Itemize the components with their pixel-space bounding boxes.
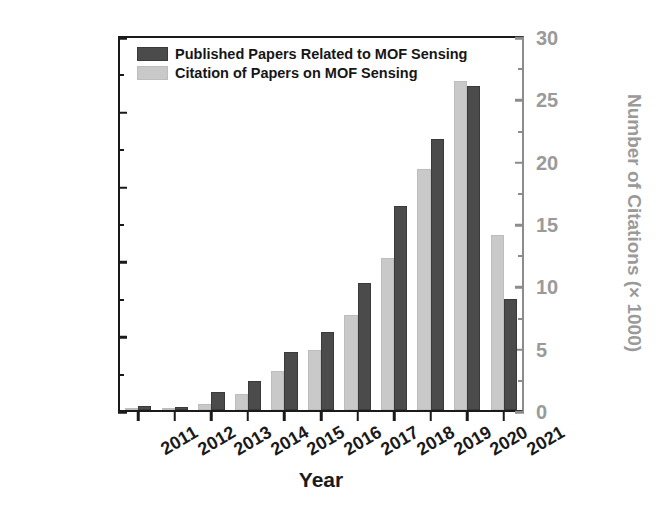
bar-published-2015: [284, 352, 297, 410]
x-axis-tick: [320, 412, 323, 421]
bar-citations-2019: [417, 169, 430, 410]
bar-citations-2018: [381, 258, 394, 410]
bar-published-2013: [211, 392, 224, 410]
bar-published-2021: [504, 299, 517, 410]
x-axis-tick: [210, 412, 213, 421]
x-axis-title: Year: [118, 468, 524, 492]
chart-legend: Published Papers Related to MOF Sensing …: [137, 46, 467, 81]
bar-citations-2016: [308, 350, 321, 410]
chart-container: Number of Published Papers Number of Cit…: [0, 0, 661, 509]
y-axis-right-tick-label: 25: [536, 89, 606, 112]
bar-published-2018: [394, 206, 407, 410]
bar-citations-2012: [162, 408, 175, 410]
y-axis-right-tick: [515, 411, 524, 414]
x-axis-tick: [356, 412, 359, 421]
bar-citations-2014: [235, 394, 248, 410]
x-axis-tick: [466, 412, 469, 421]
y-axis-right-tick-label: 20: [536, 151, 606, 174]
bar-published-2011: [138, 406, 151, 410]
x-axis-tick: [429, 412, 432, 421]
bar-published-2020: [467, 86, 480, 410]
bar-published-2019: [431, 139, 444, 410]
y-axis-right-tick-label: 0: [536, 401, 606, 424]
legend-label-citations: Citation of Papers on MOF Sensing: [175, 65, 418, 81]
bars-layer: [120, 38, 522, 410]
x-axis-tick: [283, 412, 286, 421]
y-axis-right-tick-label: 10: [536, 276, 606, 299]
bar-published-2012: [175, 407, 188, 410]
x-axis-tick: [393, 412, 396, 421]
y-axis-left-tick: [118, 411, 127, 414]
bar-citations-2017: [344, 315, 357, 410]
bar-citations-2011: [125, 408, 138, 410]
bar-published-2016: [321, 332, 334, 410]
legend-swatch-published: [137, 47, 168, 61]
legend-item: Published Papers Related to MOF Sensing: [137, 46, 467, 62]
bar-published-2017: [358, 283, 371, 410]
y-axis-right-title: Number of Citations (× 1000): [623, 28, 645, 418]
y-axis-right-tick-label: 30: [536, 27, 606, 50]
x-axis-tick: [247, 412, 250, 421]
x-axis-tick: [502, 412, 505, 421]
legend-item: Citation of Papers on MOF Sensing: [137, 65, 467, 81]
y-axis-right-tick-label: 5: [536, 338, 606, 361]
bar-published-2014: [248, 381, 261, 410]
y-axis-right-tick-label: 15: [536, 214, 606, 237]
bar-citations-2013: [198, 404, 211, 410]
bar-citations-2015: [271, 371, 284, 410]
legend-label-published: Published Papers Related to MOF Sensing: [175, 46, 467, 62]
x-axis-tick-label: 2021: [523, 422, 568, 460]
bar-citations-2021: [491, 235, 504, 410]
legend-swatch-citations: [137, 66, 168, 80]
bar-citations-2020: [454, 81, 467, 410]
y-axis-left-title: Number of Published Papers: [0, 0, 12, 38]
x-axis-tick: [137, 412, 140, 421]
x-axis-tick: [174, 412, 177, 421]
